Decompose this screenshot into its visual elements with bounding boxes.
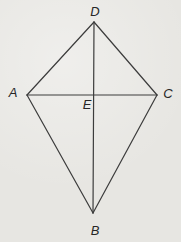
edge-DB — [93, 22, 94, 213]
edge-CB — [93, 95, 157, 213]
vertex-label-D: D — [90, 5, 99, 18]
edge-DC — [94, 22, 157, 95]
vertex-label-E: E — [83, 98, 92, 111]
kite-diagram — [0, 0, 181, 242]
edge-AB — [27, 95, 93, 213]
kite-geometry-figure: DACBE — [0, 0, 181, 242]
edge-DA — [27, 22, 94, 95]
vertex-label-C: C — [163, 87, 172, 100]
vertex-label-A: A — [9, 86, 18, 99]
vertex-label-B: B — [91, 224, 100, 237]
